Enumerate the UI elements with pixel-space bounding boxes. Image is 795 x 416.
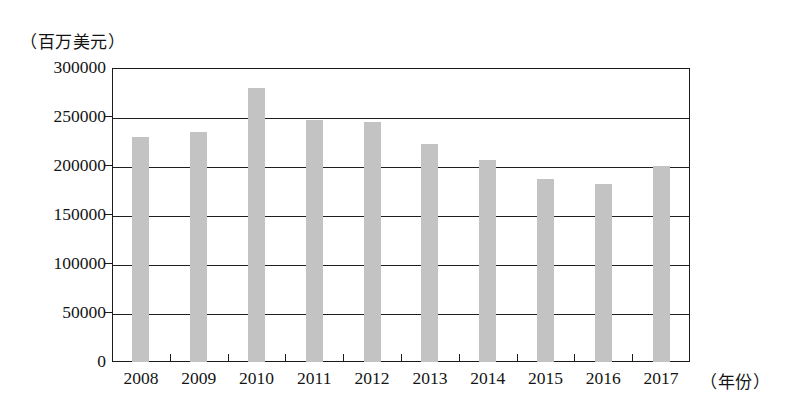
- x-axis-tick-label: 2014: [470, 368, 505, 389]
- y-axis-tick-label: 300000: [2, 59, 106, 77]
- x-axis-tick-mark: [170, 354, 171, 362]
- bar: [132, 137, 149, 362]
- x-axis-tick-label: 2015: [528, 368, 563, 389]
- bars-container: [112, 68, 690, 362]
- bar: [364, 122, 381, 362]
- x-axis-tick-label: 2009: [181, 368, 216, 389]
- x-axis-tick-label: 2016: [586, 368, 621, 389]
- y-axis-tick-label: 150000: [2, 206, 106, 224]
- bar: [537, 179, 554, 362]
- x-axis-tick-mark: [343, 354, 344, 362]
- x-axis-tick-label: 2011: [297, 368, 331, 389]
- y-axis-tick-label: 0: [2, 353, 106, 371]
- y-axis-tick-label: 200000: [2, 157, 106, 175]
- x-axis-tick-mark: [285, 354, 286, 362]
- y-axis-tick-label: 250000: [2, 108, 106, 126]
- bar: [421, 144, 438, 362]
- x-axis-tick-mark: [401, 354, 402, 362]
- x-axis-tick-label: 2017: [644, 368, 679, 389]
- y-axis-tick-label: 50000: [2, 304, 106, 322]
- x-axis-unit-label: （年份）: [700, 368, 770, 393]
- x-axis-tick-mark: [459, 354, 460, 362]
- bar: [479, 160, 496, 362]
- x-axis-tick-mark: [574, 354, 575, 362]
- x-axis-tick-label: 2013: [412, 368, 447, 389]
- bar: [595, 184, 612, 362]
- x-axis-tick-labels: 2008200920102011201220132014201520162017: [112, 368, 690, 402]
- x-axis-tick-mark: [517, 354, 518, 362]
- bar: [306, 120, 323, 362]
- x-axis-tick-label: 2008: [123, 368, 158, 389]
- y-axis-tick-labels: 050000100000150000200000250000300000: [0, 0, 106, 416]
- x-axis-tick-mark: [228, 354, 229, 362]
- bar: [248, 88, 265, 362]
- bar-chart: （百万美元） 050000100000150000200000250000300…: [0, 0, 795, 416]
- bar: [653, 166, 670, 362]
- y-axis-tick-label: 100000: [2, 255, 106, 273]
- x-axis-tick-label: 2012: [355, 368, 390, 389]
- x-axis-tick-mark: [632, 354, 633, 362]
- x-axis-tick-label: 2010: [239, 368, 274, 389]
- bar: [190, 132, 207, 362]
